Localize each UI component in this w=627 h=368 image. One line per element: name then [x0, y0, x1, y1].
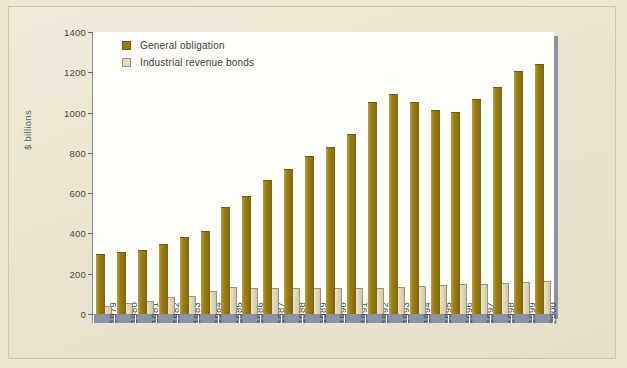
x-axis-tick-mark — [386, 315, 387, 323]
bar-general-obligation — [368, 102, 377, 315]
bar-general-obligation — [514, 71, 523, 314]
bar-group — [156, 32, 177, 314]
y-axis-tick-label: 0 — [81, 309, 86, 320]
bar-general-obligation — [431, 110, 440, 314]
x-axis-tick-mark — [553, 315, 554, 323]
y-axis-tick-mark — [88, 193, 93, 194]
bar-general-obligation — [159, 244, 168, 315]
x-axis-tick-mark — [302, 315, 303, 323]
y-axis-tick-label: 800 — [70, 147, 86, 158]
y-axis-title: $ billions — [22, 110, 33, 150]
bar-general-obligation — [410, 102, 419, 315]
bar-group — [323, 32, 344, 314]
bar-group — [260, 32, 281, 314]
bar-general-obligation — [180, 237, 189, 314]
y-axis-tick-label: 600 — [70, 188, 86, 199]
y-axis-tick-mark — [88, 113, 93, 114]
x-axis-tick-mark — [198, 315, 199, 323]
bar-general-obligation — [242, 196, 251, 314]
bar-group — [365, 32, 386, 314]
bar-group — [532, 32, 553, 314]
bar-general-obligation — [326, 147, 335, 314]
y-axis-tick-mark — [88, 72, 93, 73]
bar-general-obligation — [472, 99, 481, 314]
y-axis-tick-mark — [88, 233, 93, 234]
chart-page: $ billions 1400120010008006004002000 Gen… — [0, 0, 627, 368]
x-axis-tick-mark — [511, 315, 512, 323]
bar-group — [281, 32, 302, 314]
bar-group — [114, 32, 135, 314]
bar-group — [386, 32, 407, 314]
x-axis-tick-mark — [156, 315, 157, 323]
legend-swatch-icon — [122, 58, 131, 67]
bar-group — [428, 32, 449, 314]
legend-swatch-icon — [122, 41, 131, 50]
y-axis-tick-mark — [88, 32, 93, 33]
x-axis-tick-mark — [344, 315, 345, 323]
bar-general-obligation — [389, 94, 398, 314]
bar-group — [239, 32, 260, 314]
bar-group — [407, 32, 428, 314]
bar-general-obligation — [117, 252, 126, 314]
y-axis-tick-label: 400 — [70, 228, 86, 239]
bars-layer — [93, 32, 553, 314]
bar-general-obligation — [347, 134, 356, 314]
bar-general-obligation — [138, 250, 147, 314]
y-axis-tick-label: 1400 — [64, 27, 86, 38]
bar-general-obligation — [201, 231, 210, 314]
x-axis-tick-mark — [239, 315, 240, 323]
x-axis-tick-mark — [532, 315, 533, 323]
x-axis-tick-mark — [114, 315, 115, 323]
x-axis-tick-mark — [260, 315, 261, 323]
bar-group — [93, 32, 114, 314]
bar-group — [490, 32, 511, 314]
bar-group — [469, 32, 490, 314]
bar-general-obligation — [535, 64, 544, 314]
x-axis-tick-mark — [365, 315, 366, 323]
bar-general-obligation — [96, 254, 105, 314]
x-axis-tick-mark — [490, 315, 491, 323]
legend-item[interactable]: General obligation — [122, 38, 254, 53]
x-axis-tick-mark — [281, 315, 282, 323]
legend-item-label: Industrial revenue bonds — [140, 57, 254, 68]
bar-general-obligation — [451, 112, 460, 314]
x-axis-tick-mark — [407, 315, 408, 323]
x-axis-tick-mark — [177, 315, 178, 323]
y-axis-tick-label: 1000 — [64, 107, 86, 118]
bar-group — [218, 32, 239, 314]
bar-group — [448, 32, 469, 314]
x-axis-tick-mark — [428, 315, 429, 323]
bar-group — [177, 32, 198, 314]
x-axis-tick-mark — [135, 315, 136, 323]
bar-group — [302, 32, 323, 314]
bar-group — [135, 32, 156, 314]
bar-general-obligation — [284, 169, 293, 314]
legend-item-label: General obligation — [140, 40, 225, 51]
bar-group — [511, 32, 532, 314]
legend-item[interactable]: Industrial revenue bonds — [122, 55, 254, 70]
y-axis-tick-mark — [88, 153, 93, 154]
bar-general-obligation — [221, 207, 230, 314]
bar-group — [344, 32, 365, 314]
x-axis-tick-mark — [469, 315, 470, 323]
x-axis-tick-mark — [323, 315, 324, 323]
bar-general-obligation — [493, 87, 502, 314]
x-axis-tick-mark — [218, 315, 219, 323]
y-axis-tick-label: 200 — [70, 268, 86, 279]
y-axis-tick-label: 1200 — [64, 67, 86, 78]
chart-legend: General obligationIndustrial revenue bon… — [122, 38, 254, 72]
y-axis-tick-mark — [88, 274, 93, 275]
x-axis-tick-mark — [448, 315, 449, 323]
bar-group — [198, 32, 219, 314]
bar-general-obligation — [263, 180, 272, 314]
y-axis-tick-labels: 1400120010008006004002000 — [48, 0, 86, 368]
x-axis-tick-labels: 1979198019811982198319841985198619871988… — [93, 324, 553, 364]
bar-general-obligation — [305, 156, 314, 314]
x-axis-tick-mark — [93, 315, 94, 323]
